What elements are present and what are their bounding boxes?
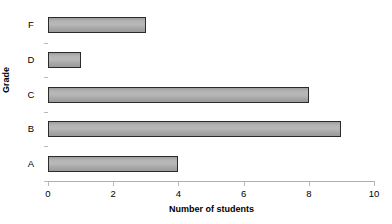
x-axis-label-2: 2 bbox=[98, 188, 128, 199]
x-axis-tick bbox=[113, 182, 114, 186]
y-axis-tick bbox=[44, 146, 48, 147]
x-axis-title: Number of students bbox=[48, 204, 375, 214]
x-axis-tick bbox=[178, 182, 179, 186]
y-axis-tick bbox=[44, 43, 48, 44]
bar-f bbox=[48, 17, 146, 33]
x-axis-tick bbox=[48, 182, 49, 186]
x-axis-label-6: 6 bbox=[229, 188, 259, 199]
x-axis-tick bbox=[244, 182, 245, 186]
bar-b bbox=[48, 121, 341, 137]
y-axis-label-b: B bbox=[20, 124, 42, 134]
y-axis-label-d: D bbox=[20, 55, 42, 65]
x-axis-line bbox=[48, 181, 375, 182]
x-axis-label-10: 10 bbox=[359, 188, 389, 199]
y-axis-tick-labels: FDCBA bbox=[16, 8, 42, 181]
y-axis-tick bbox=[44, 77, 48, 78]
x-axis-label-4: 4 bbox=[163, 188, 193, 199]
x-axis-tick bbox=[374, 182, 375, 186]
y-axis-label-a: A bbox=[20, 159, 42, 169]
y-axis-tick bbox=[44, 112, 48, 113]
y-axis-label-f: F bbox=[20, 20, 42, 30]
y-axis-title: Grade bbox=[1, 50, 11, 110]
x-axis-tick bbox=[309, 182, 310, 186]
plot-area bbox=[48, 8, 374, 181]
bar-chart: Grade FDCBA Number of students 0246810 bbox=[0, 0, 392, 224]
bar-c bbox=[48, 87, 309, 103]
y-axis-label-c: C bbox=[20, 90, 42, 100]
bar-a bbox=[48, 156, 178, 172]
x-axis-label-0: 0 bbox=[33, 188, 63, 199]
bar-d bbox=[48, 52, 81, 68]
x-axis-label-8: 8 bbox=[294, 188, 324, 199]
